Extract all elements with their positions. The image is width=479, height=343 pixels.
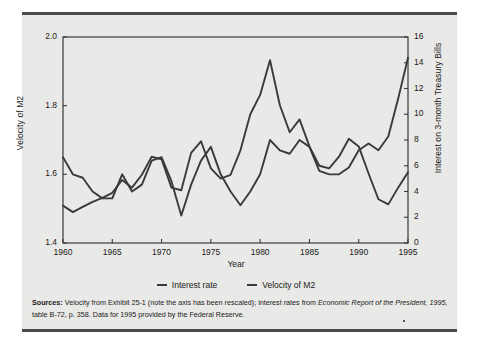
legend-swatch-icon bbox=[247, 284, 257, 287]
x-tick-label: 1970 bbox=[142, 247, 182, 257]
legend-label: Velocity of M2 bbox=[262, 280, 315, 290]
y-tick-label-left: 1.4 bbox=[31, 237, 57, 247]
sources-heading: Sources: bbox=[32, 298, 63, 307]
series-line-interest-rate bbox=[63, 60, 408, 212]
axis-frame bbox=[63, 37, 408, 243]
y-tick-label-right: 4 bbox=[414, 186, 434, 196]
y-tick-label-left: 1.6 bbox=[31, 168, 57, 178]
y-tick-label-right: 12 bbox=[414, 83, 434, 93]
x-tick-label: 1995 bbox=[388, 247, 428, 257]
y-tick-label-right: 2 bbox=[414, 211, 434, 221]
y-tick-label-right: 14 bbox=[414, 57, 434, 67]
figure-container: Velocity of M2 Interest on 3-month Treas… bbox=[0, 0, 479, 343]
y-tick-label-left: 1.8 bbox=[31, 100, 57, 110]
legend-item-velocity-m2: Velocity of M2 bbox=[247, 280, 315, 290]
x-axis-ticks bbox=[63, 239, 408, 243]
legend-item-interest-rate: Interest rate bbox=[157, 280, 217, 290]
y-axis-label-right: Interest on 3-month Treasury Bills bbox=[433, 38, 443, 178]
y-tick-label-right: 6 bbox=[414, 160, 434, 170]
y-tick-label-right: 16 bbox=[414, 31, 434, 41]
sources-note: Sources: Velocity from Exhibit 25-1 (not… bbox=[32, 297, 450, 320]
chart-legend: Interest rate Velocity of M2 bbox=[63, 280, 409, 290]
series-line-velocity-of-m2 bbox=[63, 58, 408, 216]
y-tick-label-right: 8 bbox=[414, 134, 434, 144]
y-tick-label-right: 0 bbox=[414, 237, 434, 247]
x-axis-label: Year bbox=[63, 259, 409, 269]
x-tick-label: 1965 bbox=[92, 247, 132, 257]
y-tick-label-right: 10 bbox=[414, 108, 434, 118]
x-tick-label: 1985 bbox=[289, 247, 329, 257]
y-tick-label-left: 2.0 bbox=[31, 31, 57, 41]
x-tick-label: 1990 bbox=[339, 247, 379, 257]
stray-mark bbox=[403, 320, 405, 322]
x-tick-label: 1960 bbox=[43, 247, 83, 257]
data-series-group bbox=[63, 58, 408, 216]
sources-text-part1: Velocity from Exhibit 25-1 (note the axi… bbox=[63, 298, 318, 307]
legend-swatch-icon bbox=[157, 284, 167, 287]
sources-text-part2: table B-72, p. 358. Data for 1995 provid… bbox=[32, 310, 245, 319]
x-tick-label: 1980 bbox=[240, 247, 280, 257]
x-tick-label: 1975 bbox=[191, 247, 231, 257]
y-axis-label-left: Velocity of M2 bbox=[15, 83, 25, 163]
legend-label: Interest rate bbox=[172, 280, 217, 290]
sources-citation: Economic Report of the President, 1995, bbox=[318, 298, 447, 307]
chart-plot bbox=[0, 0, 479, 343]
